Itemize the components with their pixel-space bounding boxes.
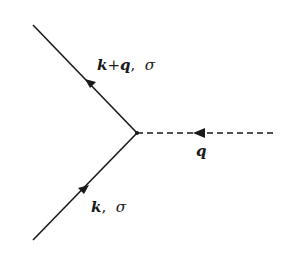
comma: , [101,198,106,216]
plus-sign: + [107,56,120,74]
feynman-diagram [0,0,294,258]
boson-label: q [196,144,207,159]
outgoing-label: k+q, σ [97,58,155,73]
vertex-dot [135,131,139,135]
momentum-q: q [196,142,207,160]
boson-arrow-icon [193,128,205,138]
momentum-k: k [91,198,101,216]
outgoing-arrow-icon [85,79,96,88]
spin-sigma: σ [145,56,155,74]
momentum-k: k [97,56,107,74]
momentum-q: q [120,56,131,74]
incoming-label: k, σ [91,200,126,215]
spin-sigma: σ [116,198,126,216]
comma: , [130,56,135,74]
